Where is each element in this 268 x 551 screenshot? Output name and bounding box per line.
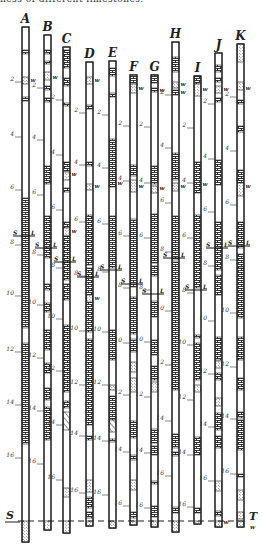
limestone-segment bbox=[23, 50, 29, 54]
sandstone-segment bbox=[238, 490, 244, 500]
water-marker: w bbox=[181, 182, 187, 189]
depth-label: 2 bbox=[50, 93, 55, 100]
limestone-segment bbox=[87, 105, 93, 109]
sandstone-segment bbox=[173, 82, 179, 88]
limestone-segment bbox=[45, 61, 51, 64]
water-marker: w bbox=[181, 88, 187, 95]
shale-segment bbox=[64, 412, 70, 430]
datum-right-label: T bbox=[249, 510, 258, 523]
depth-label: 16 bbox=[114, 499, 122, 506]
horizon-l-label: L bbox=[30, 229, 35, 236]
limestone-segment bbox=[195, 335, 201, 338]
depth-label: 10 bbox=[178, 338, 186, 345]
depth-label: 6 bbox=[118, 229, 122, 236]
depth-label: 6 bbox=[160, 196, 164, 203]
limestone-segment bbox=[23, 198, 29, 328]
limestone-segment bbox=[216, 78, 222, 82]
depth-label: 10 bbox=[70, 324, 78, 331]
limestone-segment bbox=[110, 216, 116, 268]
limestone-segment bbox=[45, 50, 51, 54]
limestone-segment bbox=[152, 75, 158, 83]
horizon-s-label: S bbox=[142, 287, 147, 294]
sandstone-segment bbox=[87, 77, 93, 84]
limestone-segment bbox=[238, 254, 244, 270]
limestone-segment bbox=[173, 262, 179, 390]
sandstone-segment bbox=[131, 84, 137, 93]
limestone-segment bbox=[23, 97, 29, 101]
depth-label: 6 bbox=[139, 231, 143, 238]
limestone-segment bbox=[64, 401, 70, 408]
sandstone-segment bbox=[87, 184, 93, 190]
shale-segment bbox=[110, 420, 116, 432]
depth-label: 16 bbox=[135, 501, 143, 508]
limestone-segment bbox=[110, 68, 116, 76]
depth-label: 14 bbox=[221, 412, 229, 419]
sandstone-segment bbox=[45, 521, 51, 530]
sandstone-segment bbox=[23, 77, 29, 84]
horizon-l-label: L bbox=[245, 239, 250, 246]
limestone-segment bbox=[173, 153, 179, 180]
limestone-segment bbox=[87, 436, 93, 440]
sandstone-segment bbox=[216, 521, 222, 527]
limestone-segment bbox=[152, 266, 158, 276]
limestone-segment bbox=[87, 512, 93, 518]
sandstone-segment bbox=[64, 172, 70, 180]
depth-label: 4 bbox=[159, 141, 164, 148]
limestone-segment bbox=[131, 75, 137, 84]
column-f: F246810121416wwSL bbox=[114, 60, 144, 525]
horizon-s-label: S bbox=[54, 255, 59, 262]
limestone-segment bbox=[216, 436, 222, 448]
depth-label: 14 bbox=[199, 420, 207, 427]
horizon-s-label: S bbox=[121, 277, 126, 284]
sandstone-segment bbox=[238, 512, 244, 519]
limestone-segment bbox=[216, 65, 222, 72]
column-label: I bbox=[194, 61, 201, 75]
depth-label: 2 bbox=[138, 120, 143, 127]
depth-label: 2 bbox=[224, 90, 229, 97]
sandstone-segment bbox=[87, 480, 93, 492]
limestone-segment bbox=[64, 222, 70, 228]
column-label: H bbox=[169, 27, 182, 41]
limestone-segment bbox=[216, 373, 222, 380]
column-outline bbox=[44, 35, 51, 530]
depth-label: 16 bbox=[28, 457, 36, 464]
depth-label: 2 bbox=[202, 97, 207, 104]
sandstone-segment bbox=[131, 180, 137, 192]
horizon-s-label: S bbox=[100, 263, 105, 270]
column-label: G bbox=[149, 60, 159, 74]
depth-label: 16 bbox=[178, 500, 186, 507]
limestone-segment bbox=[131, 421, 137, 438]
limestone-segment bbox=[45, 284, 51, 290]
horizon-l-label: L bbox=[52, 241, 57, 248]
sandstone-segment bbox=[87, 295, 93, 302]
sandstone-segment bbox=[195, 385, 201, 392]
water-marker: w bbox=[203, 180, 209, 187]
depth-label: 4 bbox=[181, 176, 186, 183]
sandstone-segment bbox=[238, 183, 244, 196]
limestone-segment bbox=[64, 325, 70, 392]
limestone-segment bbox=[152, 429, 158, 443]
depth-label: 6 bbox=[225, 198, 229, 205]
water-marker: w bbox=[139, 182, 145, 189]
water-marker: w bbox=[160, 184, 166, 191]
sandstone-segment bbox=[64, 488, 70, 497]
depth-label: 16 bbox=[199, 474, 207, 481]
limestone-segment bbox=[152, 214, 158, 263]
limestone-segment bbox=[195, 508, 201, 513]
column-label: D bbox=[83, 47, 95, 61]
depth-label: 6 bbox=[10, 183, 14, 190]
horizon-l-label: L bbox=[159, 287, 164, 294]
depth-label: 4 bbox=[50, 148, 55, 155]
stratigraphic-columns-diagram: A246810121416wSLB246810121416wSLC2468101… bbox=[0, 0, 268, 551]
depth-label: 2 bbox=[9, 75, 14, 82]
limestone-segment bbox=[152, 366, 158, 380]
limestone-segment bbox=[110, 439, 116, 442]
depth-label: 12 bbox=[135, 390, 143, 397]
column-label: C bbox=[62, 32, 72, 46]
limestone-segment bbox=[216, 337, 222, 360]
limestone-segment bbox=[45, 330, 51, 350]
column-label: A bbox=[20, 12, 30, 26]
depth-label: 8 bbox=[10, 238, 14, 245]
limestone-segment bbox=[131, 165, 137, 176]
depth-label: 4 bbox=[96, 161, 101, 168]
